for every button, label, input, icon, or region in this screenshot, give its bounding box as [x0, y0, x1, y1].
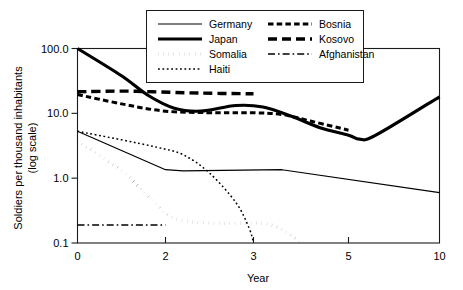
legend-label-haiti: Haiti: [209, 63, 230, 75]
series-line-somalia: [78, 141, 302, 243]
y-tick-label: 10.0: [47, 107, 68, 119]
series-line-kosovo: [78, 91, 254, 94]
legend-label-bosnia: Bosnia: [319, 18, 351, 30]
y-tick-label: 100.0: [41, 43, 69, 55]
line-chart: 100.010.01.00.1 023510 Soldiers per thou…: [0, 0, 463, 290]
y-axis-title-line1: Soldiers per thousand inhabitants: [12, 66, 24, 230]
x-tick-label: 0: [74, 250, 80, 262]
x-axis-title: Year: [247, 272, 270, 284]
legend-label-somalia: Somalia: [209, 48, 247, 60]
y-axis-tick-labels: 100.010.01.00.1: [41, 43, 69, 250]
x-tick-label: 3: [250, 250, 256, 262]
x-axis-ticks: [166, 237, 349, 243]
x-tick-label: 5: [345, 250, 351, 262]
y-axis-ticks: [72, 49, 78, 244]
series-line-haiti: [78, 131, 254, 243]
series-line-bosnia: [78, 95, 349, 131]
legend-label-japan: Japan: [209, 33, 238, 45]
series-line-germany: [78, 131, 440, 192]
y-axis-title-line2: (log scale): [26, 123, 38, 174]
x-tick-label: 10: [433, 250, 445, 262]
legend-label-germany: Germany: [209, 18, 253, 30]
chart-legend: GermanyBosniaJapanKosovoSomaliaAfghanist…: [147, 11, 375, 83]
y-tick-label: 0.1: [53, 237, 68, 249]
x-axis-tick-labels: 023510: [74, 250, 445, 262]
chart-figure: 100.010.01.00.1 023510 Soldiers per thou…: [0, 0, 463, 290]
legend-label-kosovo: Kosovo: [319, 33, 354, 45]
x-tick-label: 2: [162, 250, 168, 262]
y-tick-label: 1.0: [53, 172, 68, 184]
legend-label-afghanistan: Afghanistan: [319, 48, 375, 60]
